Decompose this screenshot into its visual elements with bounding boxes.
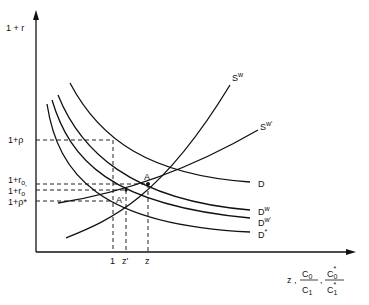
xtick-z: z [145, 256, 150, 266]
svg-text:z ,: z , [287, 275, 297, 285]
point-A [146, 182, 150, 186]
svg-text:,: , [320, 275, 323, 285]
svg-text:C1: C1 [302, 285, 313, 296]
curve-Dwp [52, 100, 250, 218]
point-A-prime [124, 188, 127, 191]
label-D: D [258, 179, 265, 189]
svg-text:C0: C0 [302, 269, 313, 280]
label-A-prime: A' [116, 195, 124, 205]
label-Dwp: Dw' [258, 216, 271, 228]
ytick-rhostar: 1+ρ* [8, 197, 27, 207]
ytick-rho: 1+ρ [8, 135, 23, 145]
label-Swp: Sw' [260, 120, 272, 132]
ytick-r0: 1+ro [8, 175, 25, 186]
xtick-1: 1 [110, 256, 115, 266]
y-axis-label: 1 + r [6, 23, 24, 33]
xtick-zprime: z' [122, 256, 129, 266]
y-axis-arrow-icon [33, 10, 39, 20]
svg-text:C0*: C0* [327, 265, 338, 280]
diagram-canvas: 1 + r 1+ρ 1+ro 1+ro' 1+ρ* 1 z' z z , C0 … [0, 0, 369, 305]
x-axis-label: z , C0 C1 , C0* C1* [287, 265, 344, 296]
label-A: A [144, 172, 150, 182]
curve-Swp [58, 130, 258, 203]
curve-Dw [58, 95, 250, 210]
x-axis-arrow-icon [346, 249, 356, 255]
label-Sw: Sw [232, 71, 244, 83]
svg-text:C1*: C1* [327, 281, 338, 296]
curve-D [70, 83, 250, 182]
label-Dstar: D* [258, 228, 268, 240]
